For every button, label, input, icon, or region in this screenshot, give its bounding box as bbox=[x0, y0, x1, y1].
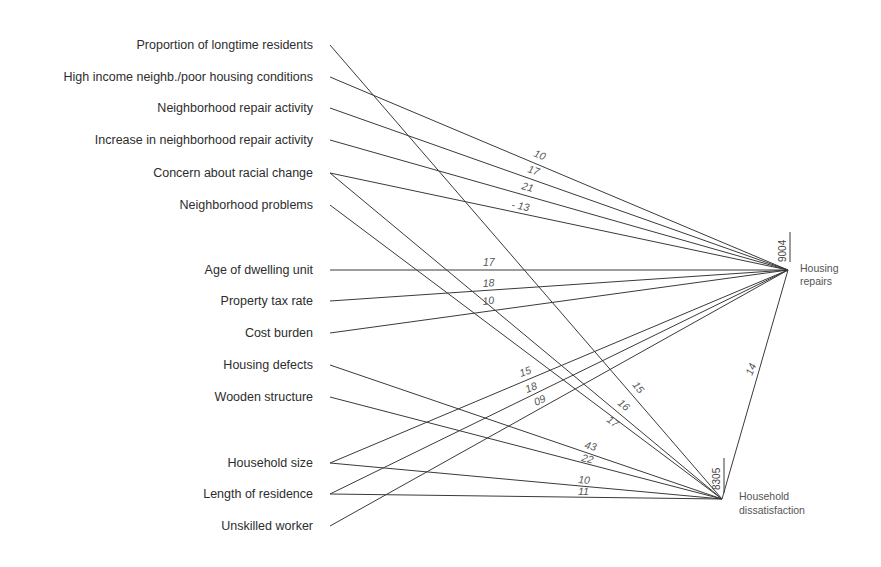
outcome-label-repairs-2: repairs bbox=[800, 275, 832, 287]
r-squared-repairs: 9004 bbox=[777, 239, 788, 262]
path-line bbox=[330, 270, 788, 494]
predictor-label: Concern about racial change bbox=[153, 166, 313, 180]
predictor-label: Wooden structure bbox=[215, 390, 313, 404]
path-diagram: Proportion of longtime residentsHigh inc… bbox=[0, 0, 881, 567]
predictor-label: Housing defects bbox=[223, 358, 313, 372]
path-coefficient: 16 bbox=[616, 396, 633, 413]
path-line bbox=[330, 140, 788, 270]
path-coefficient: 11 bbox=[578, 485, 589, 497]
predictor-label: Age of dwelling unit bbox=[205, 263, 314, 277]
path-coefficient: 15 bbox=[630, 379, 647, 396]
path-line bbox=[330, 270, 788, 301]
path-line bbox=[330, 77, 788, 270]
path-line bbox=[330, 108, 788, 270]
predictor-label: Neighborhood problems bbox=[180, 198, 313, 212]
predictor-label: Unskilled worker bbox=[221, 519, 313, 533]
path-coefficient: - 13 bbox=[511, 198, 531, 213]
path-line bbox=[722, 270, 788, 499]
path-line bbox=[330, 397, 722, 499]
path-coefficient: 22 bbox=[580, 451, 595, 466]
path-line bbox=[330, 173, 722, 499]
outcome-label-dissatisfaction-2: dissatisfaction bbox=[739, 504, 805, 516]
path-line bbox=[330, 173, 788, 270]
path-coefficient: 17 bbox=[483, 256, 496, 268]
path-line bbox=[330, 270, 788, 463]
path-coefficient: 15 bbox=[518, 364, 533, 379]
path-coefficient: 14 bbox=[743, 361, 759, 376]
path-lines bbox=[330, 45, 788, 526]
outcome-label-dissatisfaction-1: Household bbox=[739, 490, 789, 502]
path-coefficient: 21 bbox=[520, 179, 535, 194]
path-coefficient: 43 bbox=[583, 438, 598, 453]
predictor-label: Proportion of longtime residents bbox=[137, 38, 313, 52]
path-coefficient: 10 bbox=[532, 147, 547, 163]
path-line bbox=[330, 205, 722, 499]
predictor-label: Cost burden bbox=[245, 326, 313, 340]
predictor-labels: Proportion of longtime residentsHigh inc… bbox=[64, 38, 314, 533]
path-line bbox=[330, 494, 722, 499]
path-coefficient: 10 bbox=[482, 294, 495, 307]
predictor-label: Increase in neighborhood repair activity bbox=[95, 133, 314, 147]
path-coefficient: 17 bbox=[605, 413, 622, 430]
predictor-label: High income neighb./poor housing conditi… bbox=[64, 70, 313, 84]
path-coefficient: 18 bbox=[482, 276, 495, 289]
outcome-label-repairs-1: Housing bbox=[800, 262, 839, 274]
outcome-housing-repairs: 9004 Housing repairs bbox=[777, 232, 839, 287]
path-coefficient: 17 bbox=[526, 162, 542, 177]
path-line bbox=[330, 45, 722, 499]
r-squared-dissatisfaction: 8305 bbox=[711, 467, 722, 490]
predictor-label: Household size bbox=[228, 456, 314, 470]
predictor-label: Neighborhood repair activity bbox=[157, 101, 313, 115]
predictor-label: Length of residence bbox=[203, 487, 313, 501]
predictor-label: Property tax rate bbox=[221, 294, 313, 308]
path-line bbox=[330, 270, 788, 333]
